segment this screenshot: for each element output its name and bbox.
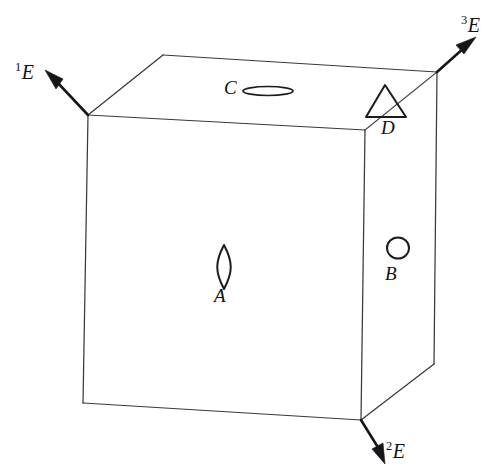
- figure-canvas: A B C D 1E 2E 3E: [0, 0, 503, 473]
- axis-E2-shaft: [361, 420, 379, 449]
- cube-wireframe: [83, 55, 437, 420]
- axis-E1-shaft: [57, 82, 88, 115]
- cube-diagram-svg: [0, 0, 503, 473]
- cube-edge-top-left: [88, 55, 163, 115]
- marker-label-a: A: [214, 286, 226, 305]
- axis-label-e1: 1E: [15, 62, 34, 82]
- axis-label-e3: 3E: [461, 15, 480, 35]
- cube-edge-front-right: [361, 130, 365, 420]
- cube-edge-right-bottom: [361, 364, 434, 420]
- marker-B-shape: [387, 238, 409, 259]
- cube-edge-top-back: [163, 55, 437, 72]
- axis-label-e2-superscript: 2: [386, 439, 392, 453]
- marker-label-d: D: [381, 118, 395, 137]
- marker-D-shape: [366, 85, 406, 117]
- axis-E2-arrowhead: [372, 443, 385, 464]
- axis-label-e2: 2E: [386, 441, 405, 461]
- marker-A-shape: [217, 245, 231, 289]
- cube-edge-front-top: [88, 115, 365, 130]
- cube-edge-front-left: [83, 115, 88, 403]
- axis-label-e2-base: E: [393, 440, 405, 462]
- axis-E3: [437, 37, 476, 72]
- axis-label-e3-superscript: 3: [461, 13, 467, 27]
- cube-edge-right-back-vertical: [434, 72, 437, 364]
- axis-label-e3-base: E: [468, 14, 480, 36]
- marker-C-shape: [243, 87, 293, 96]
- axis-E2: [361, 420, 385, 464]
- axis-label-e1-superscript: 1: [15, 60, 21, 74]
- axis-E1: [45, 70, 88, 115]
- cube-edge-front-bottom: [83, 403, 361, 420]
- axis-label-e1-base: E: [22, 61, 34, 83]
- marker-label-b: B: [385, 264, 397, 283]
- marker-label-c: C: [224, 78, 237, 97]
